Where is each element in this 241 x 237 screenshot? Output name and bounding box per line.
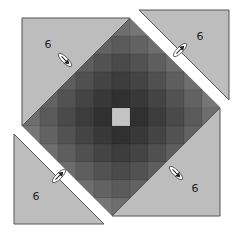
grid-cell: [94, 72, 112, 90]
triangle-label: 6: [197, 30, 204, 43]
grid-cell: [112, 126, 130, 144]
grid-cell: [130, 54, 148, 72]
grid-cell: [94, 180, 112, 198]
grid-cell: [94, 126, 112, 144]
grid-cell: [166, 90, 184, 108]
grid-cell: [112, 54, 130, 72]
grid-cell: [184, 90, 202, 108]
grid-cell: [112, 144, 130, 162]
grid-cell: [112, 90, 130, 108]
grid-cell: [76, 108, 94, 126]
grid-cell: [40, 108, 58, 126]
grid-cell: [148, 144, 166, 162]
grid-cell: [130, 36, 148, 54]
grid-cell: [130, 162, 148, 180]
grid-cell: [112, 72, 130, 90]
grid-cell: [184, 108, 202, 126]
triangle-label: 6: [33, 190, 40, 203]
grid-cell: [94, 54, 112, 72]
grid-cell: [130, 72, 148, 90]
grid-cell: [94, 162, 112, 180]
grid-cell: [94, 144, 112, 162]
grid-cell: [112, 36, 130, 54]
grid-cell: [148, 108, 166, 126]
grid-cell: [76, 144, 94, 162]
grid-cell: [112, 180, 130, 198]
grid-cell: [112, 162, 130, 180]
grid-cell: [130, 144, 148, 162]
grid-cell: [166, 108, 184, 126]
grid-cell: [76, 162, 94, 180]
triangle-label: 6: [192, 182, 199, 195]
grid-cell: [148, 90, 166, 108]
grid-cell: [130, 126, 148, 144]
grid-cell: [58, 144, 76, 162]
grid-cell: [166, 72, 184, 90]
grid-cell: [148, 126, 166, 144]
grid-cell: [76, 72, 94, 90]
grid-cell: [94, 90, 112, 108]
grid-cell: [148, 72, 166, 90]
grid-cell: [58, 90, 76, 108]
grid-cell: [58, 108, 76, 126]
triangle-label: 6: [45, 38, 52, 51]
grid-cell: [130, 90, 148, 108]
grid-cell: [76, 90, 94, 108]
grid-cell: [166, 126, 184, 144]
grid-cell: [40, 126, 58, 144]
grid-cell: [58, 126, 76, 144]
grid-cell: [112, 108, 130, 126]
grid-cell: [76, 126, 94, 144]
grid-cell: [148, 54, 166, 72]
grid-cell: [94, 108, 112, 126]
diamond-grid-diagram: 6666: [0, 0, 241, 237]
grid-cell: [130, 108, 148, 126]
